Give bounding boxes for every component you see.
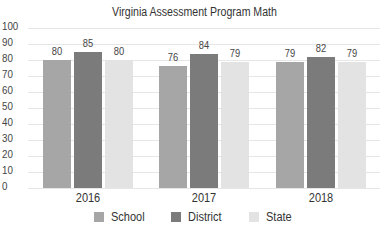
data-label: 79: [223, 47, 247, 59]
legend-item-state: State: [249, 210, 295, 224]
y-tick-label: 50: [2, 100, 22, 112]
x-tick-label-2017: 2017: [164, 191, 243, 205]
legend-swatch-state: [249, 212, 259, 222]
bar-school-2016: [43, 60, 71, 188]
y-tick-label: 90: [2, 36, 22, 48]
bar-state-2016: [105, 60, 133, 188]
legend-label-school: School: [111, 210, 145, 224]
data-label: 85: [76, 37, 100, 49]
y-tick-label: 80: [2, 52, 22, 64]
plot-area: 0102030405060708090100808580201676847920…: [0, 0, 389, 232]
y-tick-label: 10: [2, 164, 22, 176]
y-tick-label: 40: [2, 116, 22, 128]
legend-label-district: District: [188, 210, 222, 224]
y-tick-label: 30: [2, 132, 22, 144]
bar-district-2018: [307, 57, 335, 188]
x-tick-label-2018: 2018: [281, 191, 360, 205]
bar-school-2017: [159, 66, 187, 188]
bar-district-2017: [190, 54, 218, 188]
data-label: 76: [161, 51, 185, 63]
legend-item-district: District: [171, 210, 226, 224]
data-label: 79: [340, 47, 364, 59]
bar-district-2016: [74, 52, 102, 188]
legend-label-state: State: [266, 210, 292, 224]
gridline: [28, 188, 380, 189]
y-tick-label: 0: [2, 180, 22, 192]
legend-swatch-school: [94, 212, 104, 222]
bar-state-2018: [338, 62, 366, 188]
legend-item-school: School: [94, 210, 149, 224]
data-label: 79: [278, 47, 302, 59]
data-label: 80: [107, 45, 131, 57]
x-tick-label-2016: 2016: [48, 191, 127, 205]
gridline: [28, 28, 380, 29]
y-tick-label: 60: [2, 84, 22, 96]
data-label: 84: [192, 39, 216, 51]
bar-school-2018: [276, 62, 304, 188]
legend: School District State: [0, 210, 389, 224]
data-label: 80: [45, 45, 69, 57]
bar-state-2017: [221, 62, 249, 188]
y-tick-label: 70: [2, 68, 22, 80]
legend-swatch-district: [171, 212, 181, 222]
y-tick-label: 100: [2, 20, 22, 32]
data-label: 82: [309, 42, 333, 54]
y-tick-label: 20: [2, 148, 22, 160]
